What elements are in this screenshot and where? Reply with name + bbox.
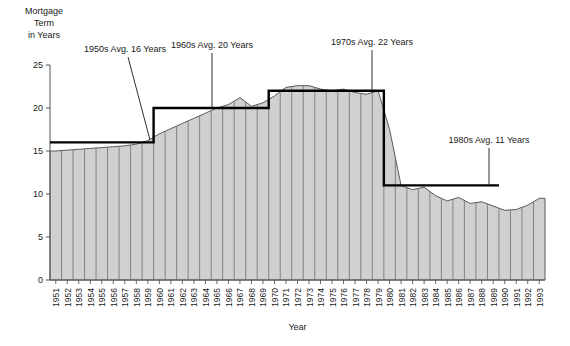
x-tick-label-1970: 1970 bbox=[270, 288, 280, 307]
x-tick-label-1984: 1984 bbox=[431, 288, 441, 307]
y-tick-label-10: 10 bbox=[33, 189, 43, 199]
x-tick-label-1957: 1957 bbox=[120, 288, 130, 307]
x-tick-label-1955: 1955 bbox=[97, 288, 107, 307]
x-tick-label-1969: 1969 bbox=[258, 288, 268, 307]
y-axis-title-line: Term bbox=[34, 18, 54, 28]
x-tick-label-1966: 1966 bbox=[224, 288, 234, 307]
y-tick-label-20: 20 bbox=[33, 103, 43, 113]
y-tick-label-0: 0 bbox=[38, 275, 43, 285]
x-tick-label-1977: 1977 bbox=[351, 288, 361, 307]
x-tick-label-1981: 1981 bbox=[397, 288, 407, 307]
mortgage-term-area-chart: 0510152025195119521953195419551956195719… bbox=[0, 0, 570, 346]
x-tick-label-1953: 1953 bbox=[74, 288, 84, 307]
x-tick-label-1974: 1974 bbox=[316, 288, 326, 307]
annotation-label-1980s: 1980s Avg. 11 Years bbox=[448, 135, 530, 145]
x-tick-label-1983: 1983 bbox=[420, 288, 430, 307]
y-tick-label-15: 15 bbox=[33, 146, 43, 156]
x-tick-label-1985: 1985 bbox=[443, 288, 453, 307]
x-tick-label-1978: 1978 bbox=[362, 288, 372, 307]
x-tick-label-1962: 1962 bbox=[178, 288, 188, 307]
x-tick-label-1989: 1989 bbox=[489, 288, 499, 307]
annotation-label-1960s: 1960s Avg. 20 Years bbox=[171, 40, 253, 50]
x-tick-label-1982: 1982 bbox=[408, 288, 418, 307]
y-tick-label-25: 25 bbox=[33, 60, 43, 70]
x-tick-label-1960: 1960 bbox=[155, 288, 165, 307]
x-tick-label-1952: 1952 bbox=[63, 288, 73, 307]
x-tick-label-1956: 1956 bbox=[109, 288, 119, 307]
annotation-label-1950s: 1950s Avg. 16 Years bbox=[84, 44, 166, 54]
x-tick-label-1991: 1991 bbox=[512, 288, 522, 307]
x-tick-label-1992: 1992 bbox=[523, 288, 533, 307]
x-tick-label-1993: 1993 bbox=[535, 288, 545, 307]
x-tick-label-1980: 1980 bbox=[385, 288, 395, 307]
area-series-mortgage-term bbox=[50, 86, 545, 280]
x-axis-title: Year bbox=[288, 322, 306, 332]
x-tick-label-1967: 1967 bbox=[235, 288, 245, 307]
annotation-label-1970s: 1970s Avg. 22 Years bbox=[331, 37, 413, 47]
x-tick-label-1959: 1959 bbox=[143, 288, 153, 307]
x-tick-label-1973: 1973 bbox=[305, 288, 315, 307]
annotation-leader-line-1950s bbox=[128, 57, 150, 140]
x-tick-label-1964: 1964 bbox=[201, 288, 211, 307]
x-tick-label-1988: 1988 bbox=[477, 288, 487, 307]
x-tick-label-1986: 1986 bbox=[454, 288, 464, 307]
x-tick-label-1963: 1963 bbox=[189, 288, 199, 307]
x-tick-label-1979: 1979 bbox=[374, 288, 384, 307]
x-tick-label-1968: 1968 bbox=[247, 288, 257, 307]
x-tick-label-1961: 1961 bbox=[166, 288, 176, 307]
chart-container: 0510152025195119521953195419551956195719… bbox=[0, 0, 570, 346]
x-tick-label-1975: 1975 bbox=[328, 288, 338, 307]
x-tick-label-1972: 1972 bbox=[293, 288, 303, 307]
y-tick-label-5: 5 bbox=[38, 232, 43, 242]
x-tick-label-1987: 1987 bbox=[466, 288, 476, 307]
x-tick-label-1976: 1976 bbox=[339, 288, 349, 307]
x-tick-label-1965: 1965 bbox=[212, 288, 222, 307]
x-tick-label-1971: 1971 bbox=[281, 288, 291, 307]
y-axis-title-line: Mortgage bbox=[25, 6, 63, 16]
x-tick-label-1954: 1954 bbox=[86, 288, 96, 307]
x-tick-label-1951: 1951 bbox=[51, 288, 61, 307]
y-axis-title-line: in Years bbox=[28, 30, 61, 40]
x-tick-label-1990: 1990 bbox=[500, 288, 510, 307]
x-tick-label-1958: 1958 bbox=[132, 288, 142, 307]
